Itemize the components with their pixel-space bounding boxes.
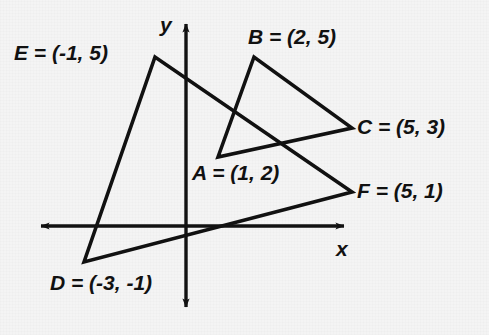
triangle-abc-outline [218,57,352,157]
x-axis-label: x [336,238,348,259]
point-label-D: D = (-3, -1) [50,272,152,293]
point-label-E: E = (-1, 5) [14,42,108,63]
point-label-E-text: E = (-1, 5) [14,41,108,64]
point-label-F-text: F = (5, 1) [357,179,443,202]
point-label-C-text: C = (5, 3) [357,115,445,138]
point-label-A: A = (1, 2) [192,162,279,183]
point-label-B-text: B = (2, 5) [248,25,336,48]
point-label-F: F = (5, 1) [357,180,443,201]
triangle-def-outline [84,57,352,262]
point-label-D-text: D = (-3, -1) [50,271,152,294]
triangle-def [84,57,352,262]
triangle-abc [218,57,352,157]
point-label-C: C = (5, 3) [357,116,445,137]
geometry-figure: E = (-1, 5) B = (2, 5) C = (5, 3) A = (1… [0,0,489,335]
point-label-B: B = (2, 5) [248,26,336,47]
y-axis-label: y [160,14,172,35]
point-label-A-text: A = (1, 2) [192,161,279,184]
